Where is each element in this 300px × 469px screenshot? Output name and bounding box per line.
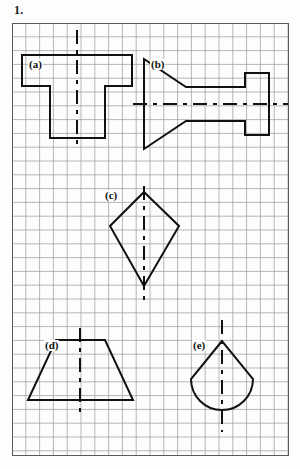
figures-layer: [22, 30, 288, 432]
figure-b: [133, 59, 288, 149]
figure-label-e: (e): [192, 340, 206, 351]
grid-border: [13, 24, 289, 456]
figure-label-b: (b): [150, 59, 165, 70]
figures-canvas: [12, 23, 289, 456]
grid-panel: (a) (b) (c) (d) (e): [12, 23, 289, 456]
figure-label-d: (d): [44, 340, 59, 351]
figure-e: [191, 320, 253, 432]
page-title: 1.: [14, 3, 24, 18]
figure-a: [22, 30, 132, 148]
grid-lines: [12, 23, 289, 456]
figure-label-c: (c): [104, 190, 118, 201]
worksheet-page: 1. (a) (b) (c) (d) (e): [0, 0, 300, 469]
figure-c: [110, 186, 179, 300]
figure-label-a: (a): [28, 59, 43, 70]
